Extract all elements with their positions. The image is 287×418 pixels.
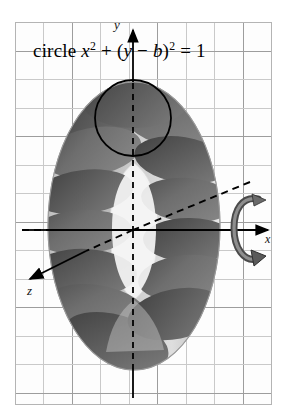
equation-var-b: b xyxy=(153,40,163,61)
circle-equation-label: circle x2 + (y − b)2 = 1 xyxy=(33,40,265,62)
equation-var-x: x xyxy=(81,40,90,61)
torus-figure: y x z circle x2 + (y − b)2 = 1 xyxy=(0,0,287,418)
y-axis-label: y xyxy=(114,17,120,33)
equation-plus: + xyxy=(101,40,112,61)
equation-equals: = xyxy=(180,40,191,61)
equation-var-y: y xyxy=(123,40,132,61)
equation-word: circle xyxy=(33,40,76,61)
z-axis-label: z xyxy=(27,283,32,299)
x-axis-label: x xyxy=(265,232,270,247)
equation-rhs: 1 xyxy=(196,40,206,61)
coordinate-axes xyxy=(0,0,287,418)
equation-minus: − xyxy=(137,40,148,61)
